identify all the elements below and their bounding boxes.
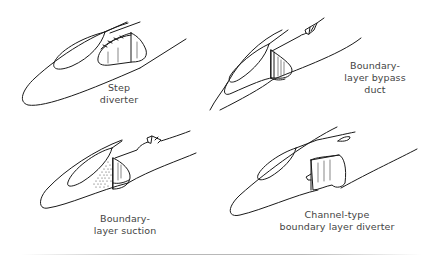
channel-diverter-outline: [311, 155, 346, 190]
label-line: layer suction: [80, 225, 170, 237]
bottom-divider: [22, 254, 422, 255]
suction-exit: [147, 136, 152, 143]
suction-label: Boundary- layer suction: [80, 213, 170, 237]
spine-line-2: [338, 137, 350, 142]
canopy: [229, 44, 269, 82]
fuselage-outline: [230, 127, 337, 216]
label-line: duct: [327, 84, 423, 96]
splitter-wedge: [306, 174, 311, 180]
channel-diverter-label: Channel-type boundary layer diverter: [262, 209, 412, 233]
canopy: [54, 32, 105, 69]
label-line: Boundary-: [80, 213, 170, 225]
fuselage-lower-line: [128, 153, 196, 183]
fuselage-lower-line: [140, 39, 186, 68]
fuselage-top-right: [161, 131, 190, 141]
label-line: diverter: [97, 94, 141, 106]
suction-illustration: [41, 131, 197, 208]
spine-line-2: [115, 142, 148, 158]
label-line: Boundary-: [327, 60, 423, 72]
step-diverter-label: Step diverter: [97, 82, 141, 106]
diverter-types-diagram: Step diverter Boundary- layer bypass duc…: [0, 0, 439, 258]
fuselage-nose: [210, 82, 228, 110]
bypass-duct-exit: [305, 27, 310, 34]
channel-diverter-illustration: [230, 127, 417, 216]
canopy: [68, 148, 112, 186]
label-line: boundary layer diverter: [262, 221, 412, 233]
fuselage-outline: [225, 30, 282, 94]
spine-line-2: [272, 33, 306, 51]
step-segment-inner: [101, 35, 131, 49]
label-line: Channel-type: [262, 209, 412, 221]
label-line: layer bypass: [327, 72, 423, 84]
fuselage-lower-line: [341, 149, 417, 188]
fuselage-outline: [41, 140, 129, 208]
label-line: Step: [97, 82, 141, 94]
bypass-duct-label: Boundary- layer bypass duct: [327, 60, 423, 96]
